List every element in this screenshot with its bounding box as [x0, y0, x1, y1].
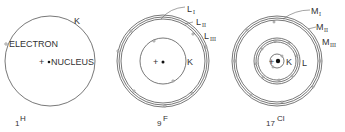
- plus-sign: +: [39, 57, 44, 67]
- nucleus-icon: [162, 61, 165, 64]
- atomic-number: 17: [266, 119, 275, 128]
- electron-label: ELECTRON: [9, 39, 58, 49]
- plus-sign: +: [269, 57, 274, 67]
- electron-icon: [250, 94, 252, 96]
- electron-icon: [117, 50, 119, 52]
- subshell-index-l2: II: [202, 22, 206, 28]
- electron-icon: [192, 33, 194, 35]
- leader-line: [283, 10, 310, 19]
- subshell-index-m1: I: [319, 11, 321, 17]
- subshell-label-m1: M: [311, 6, 319, 16]
- electron-icon: [255, 63, 257, 65]
- electron-icon: [5, 43, 7, 45]
- electron-icon: [246, 29, 248, 31]
- subshell-label-l1: L: [187, 4, 192, 14]
- subshell-index-m3: III: [330, 42, 336, 48]
- subshell-index-l3: III: [210, 36, 216, 42]
- electron-icon: [296, 55, 298, 57]
- element-symbol: F: [163, 114, 168, 123]
- subshell-label-l3: L: [204, 31, 209, 41]
- chlorine-atom: + K L M I M II M III 17 Cl: [232, 6, 336, 128]
- subshell-index-l1: I: [193, 9, 195, 15]
- electron-icon: [153, 40, 155, 42]
- subshell-label-l2: L: [196, 17, 201, 27]
- electron-icon: [278, 79, 280, 81]
- subshell-index-m2: II: [324, 27, 328, 33]
- shell-label-k: K: [187, 57, 193, 67]
- electron-icon: [261, 48, 263, 50]
- electron-icon: [234, 60, 236, 62]
- shell-label-k: K: [74, 16, 80, 26]
- electron-icon: [274, 40, 276, 42]
- electron-icon: [312, 86, 314, 88]
- electron-icon: [281, 101, 283, 103]
- subshell-label-m3: M: [322, 37, 330, 47]
- electron-icon: [205, 46, 207, 48]
- nucleus-icon: [48, 61, 51, 64]
- leader-line: [308, 27, 316, 29]
- electron-icon: [262, 76, 264, 78]
- subshell-label-m2: M: [316, 22, 324, 32]
- electron-icon: [273, 21, 275, 23]
- electron-icon: [133, 90, 135, 92]
- nucleus-label: NUCLEUS: [51, 57, 94, 67]
- plus-sign: +: [153, 57, 158, 67]
- element-symbol: H: [20, 114, 26, 123]
- hydrogen-atom: ELECTRON + NUCLEUS K 1 H: [5, 16, 95, 128]
- shell-label-k: K: [286, 57, 292, 67]
- electron-icon: [291, 75, 293, 77]
- electron-icon: [191, 92, 193, 94]
- nucleus-icon: [276, 59, 280, 63]
- shell-label-l: L: [302, 58, 307, 68]
- fluorine-atom: + K L I L II L III 9 F: [117, 4, 216, 128]
- electron-icon: [172, 80, 174, 82]
- electron-icon: [164, 105, 166, 107]
- atomic-number: 9: [157, 119, 162, 128]
- electron-icon: [281, 55, 283, 57]
- electron-icon: [130, 30, 132, 32]
- electron-icon: [319, 60, 321, 62]
- leader-line: [185, 22, 193, 24]
- element-symbol: Cl: [277, 114, 285, 123]
- electron-icon: [288, 42, 290, 44]
- atom-diagram: ELECTRON + NUCLEUS K 1 H + K L I L II L: [0, 0, 345, 132]
